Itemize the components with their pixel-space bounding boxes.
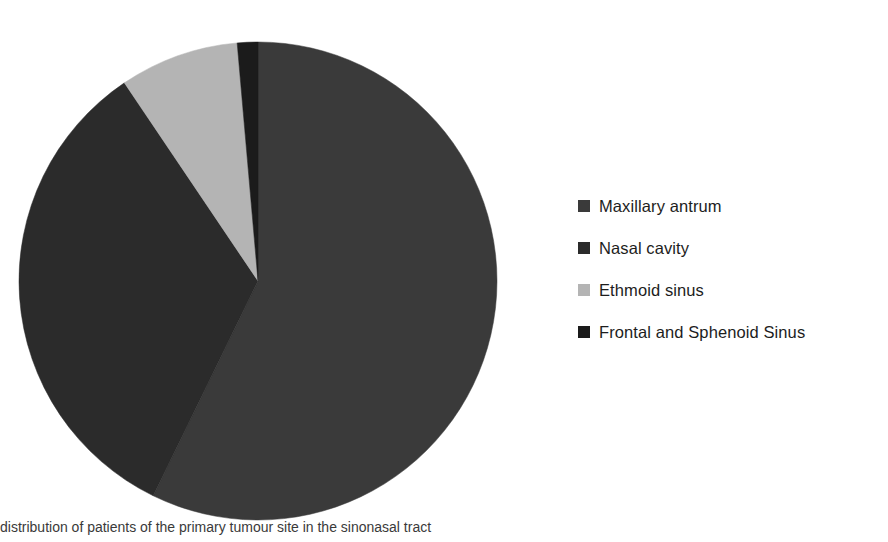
legend-item-maxillary-antrum[interactable]: Maxillary antrum: [578, 196, 878, 216]
chart-legend: Maxillary antrum Nasal cavity Ethmoid si…: [578, 196, 878, 342]
legend-item-frontal-and-sphenoid-sinus[interactable]: Frontal and Sphenoid Sinus: [578, 322, 878, 342]
figure-caption-strip: distribution of patients of the primary …: [0, 520, 560, 542]
pie-slice-group: [19, 42, 497, 520]
square-swatch-icon: [578, 242, 590, 254]
square-swatch-icon: [578, 326, 590, 338]
legend-item-label: Maxillary antrum: [599, 196, 722, 216]
legend-item-nasal-cavity[interactable]: Nasal cavity: [578, 238, 878, 258]
figure-caption-text: distribution of patients of the primary …: [0, 520, 431, 537]
pie-chart-figure: Maxillary antrum Nasal cavity Ethmoid si…: [0, 0, 888, 542]
pie-chart-area: [0, 0, 540, 542]
legend-item-label: Frontal and Sphenoid Sinus: [599, 322, 805, 342]
legend-item-label: Ethmoid sinus: [599, 280, 704, 300]
legend-item-ethmoid-sinus[interactable]: Ethmoid sinus: [578, 280, 878, 300]
square-swatch-icon: [578, 284, 590, 296]
square-swatch-icon: [578, 200, 590, 212]
pie-chart-svg: [0, 0, 540, 542]
legend-item-label: Nasal cavity: [599, 238, 689, 258]
